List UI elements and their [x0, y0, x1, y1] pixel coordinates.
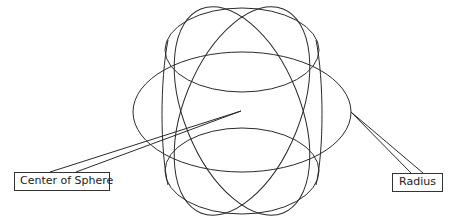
center-leader-line — [50, 111, 241, 172]
meridian-circle-right — [147, 0, 337, 221]
equator-circle — [133, 52, 351, 172]
right-silhouette — [316, 40, 322, 185]
top-circle — [165, 8, 319, 92]
bottom-circle — [165, 128, 319, 214]
center-of-sphere-label: Center of Sphere — [14, 172, 110, 191]
left-silhouette — [162, 40, 168, 185]
meridian-circle-left — [147, 0, 337, 221]
radius-leader-line — [351, 112, 423, 173]
radius-label: Radius — [392, 173, 443, 192]
